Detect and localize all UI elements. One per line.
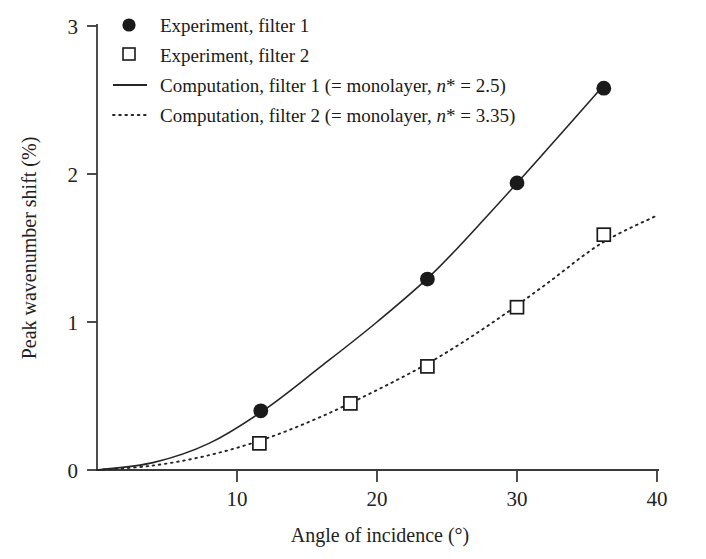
curves-group xyxy=(97,85,657,470)
legend-label-1: Experiment, filter 2 xyxy=(160,45,309,66)
x-tick-label-30: 30 xyxy=(507,487,528,511)
data-point-filled-circle xyxy=(596,81,611,96)
legend-label-2-pre: Computation, filter 1 (= monolayer, xyxy=(160,75,436,97)
x-tick-labels: 10 20 30 40 xyxy=(227,487,668,511)
data-point-filled-circle xyxy=(510,175,525,190)
computation-filter2-curve xyxy=(97,215,657,470)
legend-marker-open-square xyxy=(123,48,135,60)
data-point-filled-circle xyxy=(420,272,435,287)
computation-filter1-curve xyxy=(97,85,604,470)
y-tick-label-1: 1 xyxy=(68,311,79,335)
data-point-open-square xyxy=(511,301,524,314)
x-axis-title: Angle of incidence (°) xyxy=(291,524,469,547)
legend-label-3: Computation, filter 2 (= monolayer, n* =… xyxy=(160,105,515,127)
data-point-open-square xyxy=(597,228,610,241)
x-tick-label-40: 40 xyxy=(647,487,668,511)
chart-figure: 0 1 2 3 10 20 30 40 Angle of incidence (… xyxy=(0,0,706,559)
data-point-open-square xyxy=(421,360,434,373)
y-tick-label-0: 0 xyxy=(68,459,79,483)
y-axis-title: Peak wavenumber shift (%) xyxy=(18,137,41,360)
chart-svg: 0 1 2 3 10 20 30 40 Angle of incidence (… xyxy=(0,0,706,559)
legend-label-0: Experiment, filter 1 xyxy=(160,15,309,36)
legend-label-2-post: * = 2.5) xyxy=(446,75,506,97)
legend-label-3-post: * = 3.35) xyxy=(446,105,515,127)
y-tick-labels: 0 1 2 3 xyxy=(68,15,79,483)
data-point-open-square xyxy=(344,397,357,410)
legend-label-3-pre: Computation, filter 2 (= monolayer, xyxy=(160,105,436,127)
legend-marker-filled-circle xyxy=(122,18,135,31)
x-tick-label-20: 20 xyxy=(367,487,388,511)
data-point-open-square xyxy=(253,437,266,450)
x-tick-label-10: 10 xyxy=(227,487,248,511)
y-tick-label-3: 3 xyxy=(68,15,79,39)
experiment-filter2-markers xyxy=(253,228,610,450)
legend: Experiment, filter 1 Experiment, filter … xyxy=(113,15,515,127)
y-tick-label-2: 2 xyxy=(68,163,79,187)
legend-label-2: Computation, filter 1 (= monolayer, n* =… xyxy=(160,75,506,97)
legend-label-2-ital: n xyxy=(436,75,446,96)
legend-label-3-ital: n xyxy=(436,105,446,126)
data-point-filled-circle xyxy=(253,403,268,418)
